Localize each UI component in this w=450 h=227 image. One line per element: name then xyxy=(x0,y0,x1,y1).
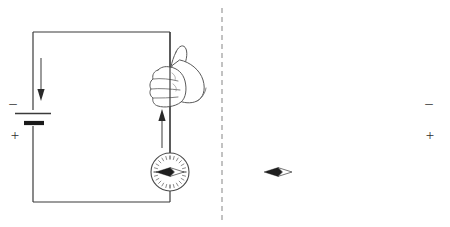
current-arrow-down xyxy=(37,58,44,101)
battery-negative-label: – xyxy=(8,95,17,111)
battery-labels-right: – + xyxy=(424,95,434,143)
battery-positive-label: + xyxy=(426,127,434,143)
battery-positive-label: + xyxy=(11,127,19,143)
circuit-loop xyxy=(33,32,170,202)
battery-symbol: – + xyxy=(8,95,51,143)
physics-diagram-figure: – + xyxy=(0,0,450,227)
left-panel: – + xyxy=(8,32,206,202)
compass xyxy=(151,153,189,191)
battery-negative-label: – xyxy=(424,95,433,111)
right-hand-grip xyxy=(150,32,206,153)
current-arrow-up xyxy=(158,109,165,148)
compass-needle xyxy=(264,168,292,177)
